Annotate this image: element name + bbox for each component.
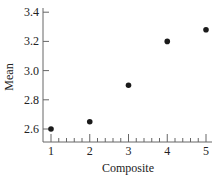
x-axis-label: Composite — [102, 161, 154, 175]
x-tick-label: 4 — [164, 144, 170, 158]
axes: 2.62.83.03.23.412345 — [24, 5, 212, 158]
x-tick-label: 3 — [126, 144, 132, 158]
y-tick-label: 2.8 — [24, 93, 39, 107]
x-tick-label: 1 — [48, 144, 54, 158]
data-point — [48, 126, 54, 132]
x-tick-label: 2 — [87, 144, 93, 158]
y-tick-label: 3.2 — [24, 34, 39, 48]
data-point — [203, 27, 209, 33]
x-tick-label: 5 — [203, 144, 209, 158]
plot-area: 2.62.83.03.23.412345 Composite Mean — [0, 0, 224, 184]
data-point — [164, 39, 170, 45]
y-tick-label: 2.6 — [24, 122, 39, 136]
data-point — [126, 82, 132, 88]
y-tick-label: 3.4 — [24, 5, 39, 19]
y-axis-label: Mean — [2, 63, 16, 90]
y-tick-label: 3.0 — [24, 64, 39, 78]
scatter-chart: 2.62.83.03.23.412345 Composite Mean — [0, 0, 224, 184]
data-points — [48, 27, 209, 132]
data-point — [87, 119, 93, 125]
